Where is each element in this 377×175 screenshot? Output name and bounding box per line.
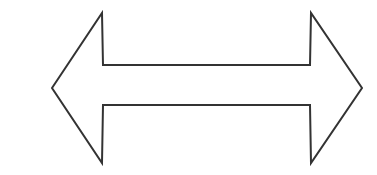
double-headed-arrow-icon [0, 0, 377, 175]
figure-canvas [0, 0, 377, 175]
double-headed-arrow-shape [52, 13, 362, 163]
